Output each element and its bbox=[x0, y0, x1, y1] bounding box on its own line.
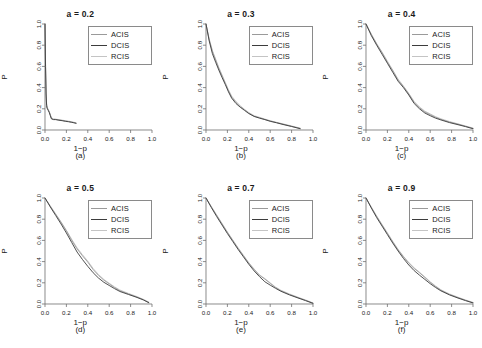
y-tick-label: 0.2 bbox=[35, 104, 42, 113]
legend-item-dcis: DCIS bbox=[412, 40, 469, 51]
legend-label: DCIS bbox=[432, 215, 450, 224]
legend-swatch-icon bbox=[91, 208, 107, 209]
x-tick-label: 0.0 bbox=[201, 309, 210, 316]
legend-swatch-icon bbox=[91, 45, 107, 46]
y-tick-label: 0.0 bbox=[357, 125, 364, 134]
x-tick-label: 0.6 bbox=[426, 309, 435, 316]
legend-label: RCIS bbox=[111, 52, 129, 61]
x-tick-label: 0.4 bbox=[405, 135, 414, 142]
x-tick-label: 0.0 bbox=[41, 135, 50, 142]
x-tick-label: 0.4 bbox=[244, 309, 253, 316]
x-tick-label: 0.8 bbox=[287, 309, 296, 316]
legend-item-rcis: RCIS bbox=[252, 225, 309, 236]
legend-swatch-icon bbox=[412, 34, 428, 35]
panel-f: a = 0.90.00.20.40.60.81.00.00.20.40.60.8… bbox=[321, 174, 482, 348]
y-tick-label: 0.8 bbox=[35, 40, 42, 49]
legend-label: RCIS bbox=[272, 226, 290, 235]
x-tick-label: 0.6 bbox=[426, 135, 435, 142]
y-tick-label: 0.6 bbox=[357, 236, 364, 245]
legend: ACISDCISRCIS bbox=[249, 26, 313, 65]
y-tick-label: 0.4 bbox=[357, 257, 364, 266]
y-tick-label: 1.0 bbox=[35, 19, 42, 28]
legend-swatch-icon bbox=[412, 208, 428, 209]
x-tick-label: 0.2 bbox=[62, 135, 71, 142]
y-tick-label: 0.2 bbox=[196, 104, 203, 113]
legend-label: DCIS bbox=[272, 41, 290, 50]
y-tick-label: 0.2 bbox=[357, 104, 364, 113]
panel-e: a = 0.70.00.20.40.60.81.00.00.20.40.60.8… bbox=[161, 174, 322, 348]
y-tick-label: 0.0 bbox=[35, 299, 42, 308]
y-tick-label: 0.8 bbox=[357, 214, 364, 223]
legend: ACISDCISRCIS bbox=[249, 200, 313, 239]
x-tick-label: 0.0 bbox=[362, 135, 371, 142]
figure-grid: a = 0.20.00.20.40.60.81.00.00.20.40.60.8… bbox=[0, 0, 482, 348]
legend-label: DCIS bbox=[111, 215, 129, 224]
legend-item-acis: ACIS bbox=[412, 29, 469, 40]
y-tick-label: 0.0 bbox=[196, 125, 203, 134]
legend-item-rcis: RCIS bbox=[91, 51, 148, 62]
legend-swatch-icon bbox=[412, 45, 428, 46]
y-tick-label: 1.0 bbox=[196, 193, 203, 202]
subfigure-caption: (f) bbox=[321, 326, 482, 334]
legend-swatch-icon bbox=[252, 56, 268, 57]
y-tick-label: 1.0 bbox=[35, 193, 42, 202]
y-tick-label: 0.6 bbox=[35, 236, 42, 245]
legend-item-rcis: RCIS bbox=[91, 225, 148, 236]
legend-label: ACIS bbox=[111, 30, 129, 39]
legend-item-rcis: RCIS bbox=[412, 51, 469, 62]
x-tick-label: 0.8 bbox=[126, 135, 135, 142]
legend-label: DCIS bbox=[272, 215, 290, 224]
legend-swatch-icon bbox=[91, 56, 107, 57]
x-tick-label: 1.0 bbox=[148, 135, 157, 142]
y-tick-label: 0.2 bbox=[35, 278, 42, 287]
y-axis-label: P bbox=[322, 248, 331, 253]
x-tick-label: 0.8 bbox=[126, 309, 135, 316]
y-tick-label: 0.0 bbox=[196, 299, 203, 308]
y-axis-label: P bbox=[161, 74, 170, 79]
panel-a: a = 0.20.00.20.40.60.81.00.00.20.40.60.8… bbox=[0, 0, 161, 174]
x-tick-label: 1.0 bbox=[308, 135, 317, 142]
legend-swatch-icon bbox=[252, 230, 268, 231]
x-tick-label: 0.2 bbox=[62, 309, 71, 316]
legend-item-dcis: DCIS bbox=[91, 40, 148, 51]
x-tick-label: 0.4 bbox=[83, 135, 92, 142]
y-tick-label: 0.8 bbox=[196, 40, 203, 49]
y-tick-label: 0.2 bbox=[196, 278, 203, 287]
y-tick-label: 0.6 bbox=[196, 62, 203, 71]
y-tick-label: 0.8 bbox=[196, 214, 203, 223]
legend-item-acis: ACIS bbox=[91, 29, 148, 40]
y-axis-label: P bbox=[0, 248, 9, 253]
y-axis-label: P bbox=[322, 74, 331, 79]
y-tick-label: 0.6 bbox=[196, 236, 203, 245]
y-tick-label: 0.4 bbox=[35, 257, 42, 266]
x-tick-label: 0.8 bbox=[448, 135, 457, 142]
panel-b: a = 0.30.00.20.40.60.81.00.00.20.40.60.8… bbox=[161, 0, 322, 174]
legend: ACISDCISRCIS bbox=[88, 26, 152, 65]
x-tick-label: 1.0 bbox=[469, 309, 478, 316]
x-tick-label: 0.4 bbox=[405, 309, 414, 316]
y-tick-label: 0.2 bbox=[357, 278, 364, 287]
subfigure-caption: (a) bbox=[0, 152, 161, 160]
x-tick-label: 0.0 bbox=[41, 309, 50, 316]
legend-swatch-icon bbox=[91, 34, 107, 35]
legend-swatch-icon bbox=[252, 34, 268, 35]
legend-label: DCIS bbox=[111, 41, 129, 50]
legend-item-dcis: DCIS bbox=[252, 214, 309, 225]
y-tick-label: 1.0 bbox=[357, 193, 364, 202]
legend: ACISDCISRCIS bbox=[409, 200, 473, 239]
legend-swatch-icon bbox=[91, 219, 107, 220]
x-tick-label: 0.2 bbox=[223, 309, 232, 316]
y-tick-label: 0.6 bbox=[35, 62, 42, 71]
legend-label: RCIS bbox=[272, 52, 290, 61]
legend-item-dcis: DCIS bbox=[412, 214, 469, 225]
legend-label: ACIS bbox=[111, 204, 129, 213]
legend-label: ACIS bbox=[432, 204, 450, 213]
legend-swatch-icon bbox=[412, 56, 428, 57]
subfigure-caption: (d) bbox=[0, 326, 161, 334]
x-tick-label: 0.6 bbox=[105, 309, 114, 316]
legend-label: RCIS bbox=[432, 52, 450, 61]
series-line-dcis bbox=[45, 24, 76, 123]
legend-item-dcis: DCIS bbox=[91, 214, 148, 225]
x-tick-label: 0.4 bbox=[244, 135, 253, 142]
legend-item-acis: ACIS bbox=[252, 29, 309, 40]
